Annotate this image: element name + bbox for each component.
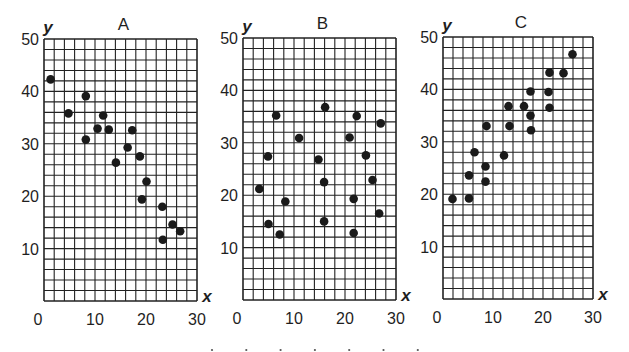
data-point (264, 220, 273, 229)
data-point (320, 217, 329, 226)
grid-a (44, 39, 197, 301)
data-point (99, 111, 108, 120)
panel-title: C (515, 13, 527, 32)
data-point (368, 176, 377, 185)
data-point (93, 124, 102, 133)
grid-b (243, 38, 396, 300)
data-point (544, 88, 553, 97)
data-point (520, 102, 529, 111)
bottom-mark (417, 349, 419, 351)
y-tick-label: 50 (21, 31, 39, 48)
y-axis-label: y (441, 16, 453, 35)
data-point (158, 202, 167, 211)
panel-b: 10203040500102030yxB (220, 14, 412, 327)
y-tick-label: 40 (420, 81, 438, 98)
y-tick-label: 30 (220, 135, 238, 152)
data-point (281, 197, 290, 206)
x-tick-label: 20 (336, 310, 354, 327)
data-point (526, 87, 535, 96)
bottom-mark (280, 349, 282, 351)
data-point (481, 177, 490, 186)
y-tick-label: 10 (220, 240, 238, 257)
y-tick-label: 10 (21, 241, 39, 258)
bottom-mark (211, 349, 213, 351)
data-point (345, 133, 354, 142)
data-point (545, 103, 554, 112)
x-tick-label: 30 (387, 310, 405, 327)
y-tick-label: 50 (220, 30, 238, 47)
bottom-mark (314, 349, 316, 351)
y-tick-label: 20 (21, 188, 39, 205)
data-point (275, 230, 284, 239)
data-point (128, 126, 137, 135)
bottom-mark (245, 349, 247, 351)
y-tick-label: 40 (220, 82, 238, 99)
data-point (376, 119, 385, 128)
data-point (320, 178, 329, 187)
data-point (46, 75, 55, 84)
panel-c: 10203040500102030yxC (420, 13, 609, 326)
y-axis-label: y (42, 18, 54, 37)
data-point (272, 111, 281, 120)
panel-a: 10203040500102030yxA (21, 15, 213, 328)
data-point (112, 158, 121, 167)
x-tick-label: 10 (285, 310, 303, 327)
data-point (314, 155, 323, 164)
y-tick-label: 30 (21, 136, 39, 153)
data-point (448, 195, 457, 204)
data-point (527, 126, 536, 135)
data-point (500, 151, 509, 160)
bottom-mark (348, 349, 350, 351)
data-point (545, 68, 554, 77)
data-point (264, 152, 273, 161)
data-point (82, 92, 91, 101)
x-tick-label: 10 (86, 311, 104, 328)
panel-title: A (118, 15, 130, 34)
x-tick-label: 0 (433, 309, 442, 326)
x-tick-label: 30 (188, 311, 206, 328)
x-axis-label: x (597, 285, 609, 304)
data-point (82, 135, 91, 144)
x-tick-label: 20 (534, 309, 552, 326)
y-tick-label: 40 (21, 83, 39, 100)
x-tick-label: 0 (34, 311, 43, 328)
bottom-marks (211, 349, 419, 351)
y-tick-label: 50 (420, 29, 438, 46)
data-point (123, 143, 132, 152)
data-point (568, 50, 577, 59)
figure-canvas: 10203040500102030yxA 10203040500102030yx… (0, 0, 629, 352)
data-point (481, 162, 490, 171)
data-point (505, 122, 514, 131)
data-point (362, 151, 371, 160)
data-point (465, 194, 474, 203)
data-point (470, 148, 479, 157)
data-point (159, 235, 168, 244)
x-tick-label: 0 (233, 310, 242, 327)
y-tick-label: 10 (420, 239, 438, 256)
data-point (349, 195, 358, 204)
y-axis-label: y (241, 17, 253, 36)
data-point (349, 229, 358, 238)
data-point (465, 171, 474, 180)
data-point (104, 125, 113, 134)
data-point (64, 109, 73, 118)
data-point (321, 103, 330, 112)
x-tick-label: 20 (137, 311, 155, 328)
data-point (375, 209, 384, 218)
data-point (176, 227, 185, 236)
data-point (526, 111, 535, 120)
x-axis-label: x (400, 286, 412, 305)
data-point (504, 102, 513, 111)
data-point (168, 220, 177, 229)
data-point (142, 177, 151, 186)
data-point (352, 112, 361, 121)
grid-c (443, 37, 593, 299)
y-tick-label: 20 (420, 186, 438, 203)
x-tick-label: 30 (584, 309, 602, 326)
data-point (295, 134, 304, 143)
data-point (559, 69, 568, 78)
y-tick-label: 30 (420, 134, 438, 151)
data-point (136, 152, 145, 161)
scatter-figure: 10203040500102030yxA 10203040500102030yx… (0, 0, 629, 352)
data-point (255, 185, 264, 194)
